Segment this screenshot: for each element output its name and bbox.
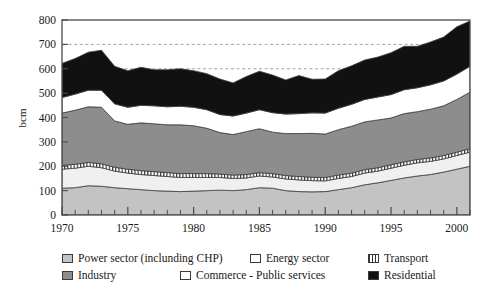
y-tick-label-700: 700	[39, 38, 57, 50]
y-tick-label-0: 0	[50, 209, 56, 221]
legend-label-industry: Industry	[78, 270, 118, 282]
legend-label-transport: Transport	[384, 253, 430, 265]
y-tick-label-800: 800	[39, 14, 57, 26]
legend-label-energy-sector: Energy sector	[266, 253, 331, 265]
energy-swatch	[250, 254, 261, 263]
legend-row-1: Power sector (inclunding CHP) Energy sec…	[62, 250, 470, 267]
x-tick-label-1975: 1975	[116, 222, 139, 234]
y-tick-label-300: 300	[39, 136, 57, 148]
legend-item-commerce[interactable]: Commerce - Public services	[180, 270, 368, 282]
y-axis-title: bcm	[16, 108, 28, 127]
legend-label-power-sector: Power sector (inclunding CHP)	[78, 253, 225, 265]
x-tick-label-1995: 1995	[380, 222, 403, 234]
commerce-swatch	[180, 271, 191, 280]
power-swatch	[62, 254, 73, 263]
legend-item-residential[interactable]: Residential	[368, 270, 438, 282]
chart-legend: Power sector (inclunding CHP) Energy sec…	[62, 250, 470, 290]
transport-swatch	[368, 254, 379, 263]
residential-swatch	[368, 271, 379, 280]
y-tick-label-100: 100	[39, 185, 57, 197]
legend-item-energy-sector[interactable]: Energy sector	[250, 253, 368, 265]
legend-item-industry[interactable]: Industry	[62, 270, 180, 282]
legend-label-residential: Residential	[384, 270, 438, 282]
legend-item-power-sector[interactable]: Power sector (inclunding CHP)	[62, 253, 250, 265]
legend-row-2: Industry Commerce - Public services Resi…	[62, 267, 470, 284]
x-tick-label-2000: 2000	[445, 222, 468, 234]
chart-figure: 0100200300400500600700800 19701975198019…	[0, 0, 488, 299]
x-tick-label-1985: 1985	[248, 222, 271, 234]
y-tick-label-600: 600	[39, 63, 57, 75]
y-tick-label-400: 400	[39, 112, 57, 124]
y-tick-label-500: 500	[39, 87, 57, 99]
x-tick-label-1990: 1990	[314, 222, 337, 234]
legend-item-transport[interactable]: Transport	[368, 253, 430, 265]
x-tick-label-1970: 1970	[51, 222, 74, 234]
legend-label-commerce: Commerce - Public services	[196, 270, 327, 282]
industry-swatch	[62, 271, 73, 280]
x-tick-label-1980: 1980	[182, 222, 205, 234]
y-tick-label-200: 200	[39, 160, 57, 172]
